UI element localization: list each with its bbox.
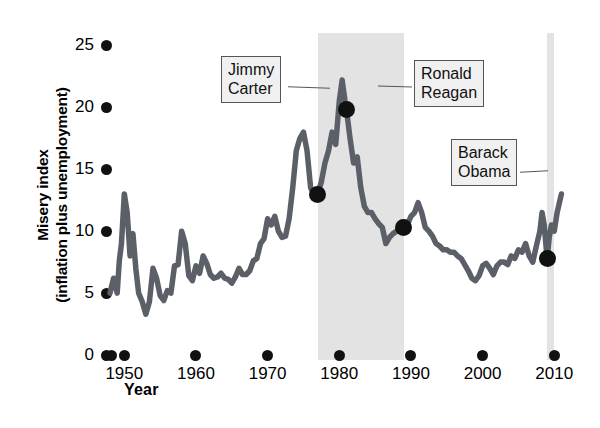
callout-obama-line1: Barack: [458, 143, 510, 162]
series-line: [0, 0, 600, 428]
president-marker-dot[interactable]: [539, 250, 556, 267]
callout-carter[interactable]: JimmyCarter: [221, 56, 281, 103]
callout-reagan[interactable]: RonaldReagan: [414, 60, 484, 107]
plot-area: 05101520251950196019701980199020002010Ji…: [0, 0, 600, 428]
callout-reagan-line1: Ronald: [421, 64, 477, 83]
callout-obama-line2: Obama: [458, 162, 510, 181]
callout-reagan-line2: Reagan: [421, 83, 477, 102]
callout-carter-line2: Carter: [228, 79, 274, 98]
chart-root: Misery index (inflation plus unemploymen…: [0, 0, 600, 428]
callout-obama[interactable]: BarackObama: [451, 139, 517, 186]
callout-carter-line1: Jimmy: [228, 60, 274, 79]
president-marker-dot[interactable]: [309, 186, 326, 203]
